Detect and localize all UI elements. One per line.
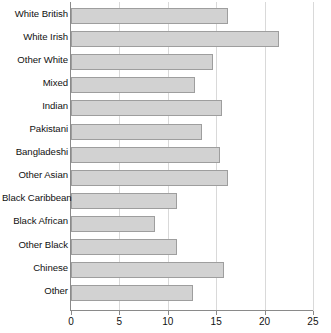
x-axis-tick: [265, 311, 266, 315]
category-label: Mixed: [2, 77, 68, 88]
category-label: Other Asian: [2, 169, 68, 180]
x-axis-tick: [119, 311, 120, 315]
bar: [71, 285, 193, 301]
category-label: Bangladeshi: [2, 146, 68, 157]
category-label: White Irish: [2, 31, 68, 42]
category-label: Other White: [2, 54, 68, 65]
bar: [71, 193, 177, 209]
x-axis-tick-label: 0: [68, 316, 74, 327]
bar: [71, 77, 195, 93]
gridline: [265, 2, 266, 311]
bar: [71, 216, 155, 232]
bar: [71, 31, 279, 47]
category-label: Other: [2, 285, 68, 296]
y-axis-line: [70, 2, 71, 311]
plot-area: [71, 2, 313, 311]
bar: [71, 262, 224, 278]
x-axis-tick-label: 5: [117, 316, 123, 327]
category-label: White British: [2, 8, 68, 19]
bar: [71, 147, 220, 163]
bar: [71, 100, 222, 116]
bar: [71, 239, 177, 255]
category-label: Indian: [2, 100, 68, 111]
x-axis-tick: [168, 311, 169, 315]
category-label: Black African: [2, 215, 68, 226]
x-axis-tick: [71, 311, 72, 315]
gridline: [313, 2, 314, 311]
category-label: Black Caribbean: [2, 192, 68, 203]
bar: [71, 170, 228, 186]
x-axis-tick: [313, 311, 314, 315]
category-label: Chinese: [2, 262, 68, 273]
bar: [71, 124, 202, 140]
category-label: Other Black: [2, 239, 68, 250]
x-axis-tick-label: 15: [211, 316, 222, 327]
category-label: Pakistani: [2, 123, 68, 134]
bar-chart: 0510152025 White BritishWhite IrishOther…: [0, 0, 331, 333]
bar: [71, 8, 228, 24]
x-axis-tick-label: 10: [162, 316, 173, 327]
y-axis-category-labels: White BritishWhite IrishOther WhiteMixed…: [0, 0, 68, 333]
x-axis-tick-label: 25: [307, 316, 318, 327]
x-axis-tick: [216, 311, 217, 315]
x-axis-tick-label: 20: [259, 316, 270, 327]
bar: [71, 54, 213, 70]
x-axis-line: [70, 310, 313, 311]
